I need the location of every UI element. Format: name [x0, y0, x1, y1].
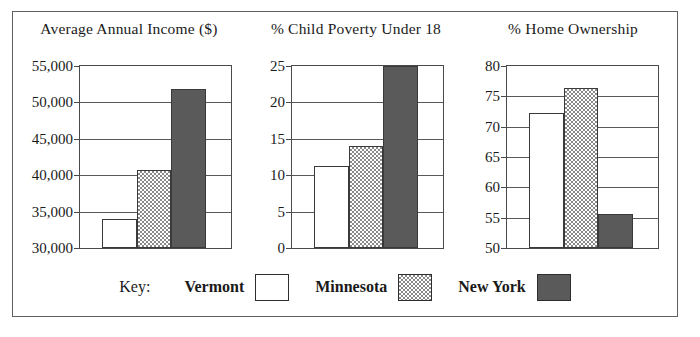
y-axis-tick-label: 50 [485, 241, 507, 256]
bar-new-york [171, 89, 206, 248]
legend-item-new-york: New York [458, 274, 570, 301]
y-axis-tick-label: 15 [270, 131, 292, 146]
plot-area: 50556065707580 [506, 65, 659, 249]
legend-swatch-vermont [255, 274, 289, 301]
gridline [292, 139, 443, 140]
legend-item-vermont: Vermont [184, 274, 289, 301]
legend-item-minnesota: Minnesota [315, 274, 432, 301]
bar-new-york [383, 66, 418, 248]
bar-vermont [102, 219, 137, 248]
plot-area: 30,00035,00040,00045,00050,00055,000 [79, 65, 232, 249]
y-axis-tick-label: 40,000 [32, 168, 80, 183]
legend-key-label: Key: [119, 278, 150, 296]
panel-title: % Home Ownership [469, 20, 677, 38]
legend-label: New York [458, 278, 525, 296]
bar-vermont [529, 113, 564, 248]
legend-swatch-minnesota [398, 274, 432, 301]
y-axis-tick-label: 80 [485, 59, 507, 74]
y-axis-tick-label: 5 [278, 204, 293, 219]
y-axis-tick-label: 60 [485, 180, 507, 195]
bar-new-york [598, 214, 633, 248]
panel-title: % Child Poverty Under 18 [245, 20, 467, 38]
y-axis-tick-label: 0 [278, 241, 293, 256]
y-axis-tick-label: 50,000 [32, 95, 80, 110]
gridline [80, 102, 231, 103]
chart-panels: Average Annual Income ($) 30,00035,00040… [13, 12, 677, 258]
legend-label: Vermont [184, 278, 244, 296]
gridline [292, 102, 443, 103]
y-axis-tick-label: 70 [485, 119, 507, 134]
y-axis-tick-label: 10 [270, 168, 292, 183]
chart-panel-child-poverty-under-18: % Child Poverty Under 18 0510152025 [245, 12, 467, 258]
chart-panel-home-ownership: % Home Ownership 50556065707580 [469, 12, 677, 258]
chart-legend: Key: Vermont Minnesota New York [13, 264, 677, 310]
plot-area: 0510152025 [291, 65, 444, 249]
y-axis-tick-label: 55,000 [32, 59, 80, 74]
bar-minnesota [137, 170, 172, 248]
panel-title: Average Annual Income ($) [15, 20, 243, 38]
y-axis-tick-label: 65 [485, 150, 507, 165]
legend-swatch-new-york [537, 274, 571, 301]
y-axis-tick-label: 75 [485, 89, 507, 104]
y-axis-tick-label: 45,000 [32, 131, 80, 146]
bar-minnesota [349, 146, 384, 248]
y-axis-tick-label: 30,000 [32, 241, 80, 256]
chart-figure: Average Annual Income ($) 30,00035,00040… [12, 11, 678, 317]
legend-label: Minnesota [315, 278, 387, 296]
bar-minnesota [564, 88, 599, 248]
chart-panel-average-annual-income: Average Annual Income ($) 30,00035,00040… [15, 12, 243, 258]
bar-vermont [314, 166, 349, 248]
gridline [80, 139, 231, 140]
y-axis-tick-label: 35,000 [32, 204, 80, 219]
y-axis-tick-label: 20 [270, 95, 292, 110]
y-axis-tick-label: 55 [485, 210, 507, 225]
y-axis-tick-label: 25 [270, 59, 292, 74]
